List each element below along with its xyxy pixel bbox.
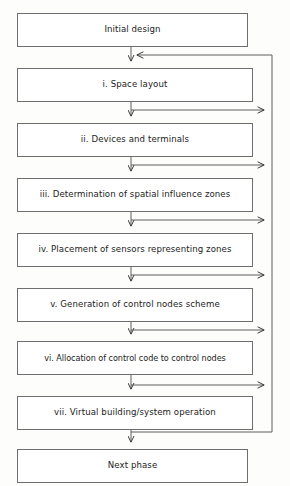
node-next-phase[interactable]: Next phase xyxy=(17,449,248,483)
node-step-i-space-layout[interactable]: i. Space layout xyxy=(17,68,253,102)
node-label: Next phase xyxy=(108,461,158,470)
node-step-ii-devices-and-terminals[interactable]: ii. Devices and terminals xyxy=(17,123,253,157)
node-step-iv-placement-of-sensors[interactable]: iv. Placement of sensors representing zo… xyxy=(17,233,253,267)
node-step-iii-determination-of-spatial-influence-zones[interactable]: iii. Determination of spatial influence … xyxy=(17,178,253,212)
node-step-vi-allocation-of-control-code[interactable]: vi. Allocation of control code to contro… xyxy=(17,341,253,375)
node-label: vii. Virtual building/system operation xyxy=(54,408,216,417)
node-step-v-generation-of-control-nodes-scheme[interactable]: v. Generation of control nodes scheme xyxy=(17,288,253,322)
flowchart-figure: Initial design i. Space layout ii. Devic… xyxy=(0,0,290,486)
node-label: iii. Determination of spatial influence … xyxy=(40,190,231,199)
node-label: iv. Placement of sensors representing zo… xyxy=(38,245,231,254)
node-label: v. Generation of control nodes scheme xyxy=(50,300,220,309)
node-label: vi. Allocation of control code to contro… xyxy=(44,354,226,363)
node-label: i. Space layout xyxy=(103,80,168,89)
node-label: Initial design xyxy=(104,25,160,34)
node-label: ii. Devices and terminals xyxy=(81,135,189,144)
node-initial-design[interactable]: Initial design xyxy=(17,13,248,47)
node-step-vii-virtual-building-system-operation[interactable]: vii. Virtual building/system operation xyxy=(17,396,253,430)
